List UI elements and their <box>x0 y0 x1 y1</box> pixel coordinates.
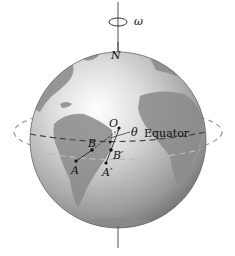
equator-label: Equator <box>144 128 189 139</box>
north-label: N <box>111 50 121 61</box>
point-A <box>74 159 77 162</box>
theta-label: θ <box>131 127 138 138</box>
origin-label: O <box>109 118 118 129</box>
B-label: B <box>88 138 96 149</box>
point-A-prime <box>104 161 107 164</box>
A-prime-label: A′ <box>102 167 112 178</box>
omega-label: ω <box>134 16 143 27</box>
point-mid <box>109 141 111 143</box>
A-label: A <box>71 165 79 176</box>
B-prime-label: B′ <box>113 150 124 161</box>
